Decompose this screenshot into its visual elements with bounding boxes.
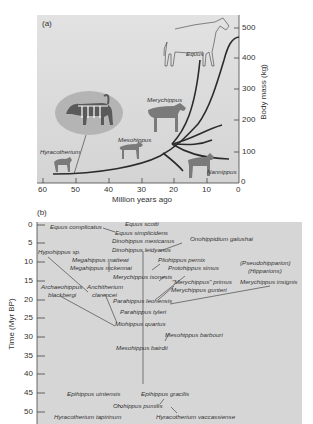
taxon-label-mesohippus: Mesohippus [118,137,151,143]
time-tick-35: 35 [24,352,33,360]
panel-a-label: (a) [42,20,52,28]
time-tick-25: 25 [24,314,33,322]
taxon-merychippus-isonesis: Merychippus isonesis [113,274,172,280]
y-tick-100: 100 [242,148,255,156]
taxon-label-merychippus: Merychippus [147,97,182,103]
taxon-equus-complicatus: Equus complicatus [50,224,102,230]
taxon-merychippus-insignis: Merychippus insignis [240,279,297,285]
taxon-hyracotherium-tapirinum: Hyracotherium tapirinum [54,414,121,420]
x-tick-20: 20 [169,186,178,194]
taxon-megahippus-mattewi: Megahippus mattewi [72,257,129,263]
taxon-label-nannippus: Nannippus [207,169,237,175]
time-tick-45: 45 [24,389,33,397]
y-tick-0: 0 [241,178,245,186]
x-tick-60: 60 [38,186,47,194]
taxon-orohippus-pumilis: Orohippus pumilis [113,403,163,409]
taxon-merychippus-primus: "Merychippus" primus [172,279,232,285]
taxon-pseudhipparion: (Pseudohipparion) [240,260,291,266]
taxon-parahippus-leonensis: Parahippus leonensis [113,298,172,304]
taxon-pliohippus-pernix: Pliohippus pernix [158,257,205,263]
taxon-label-hyracotherium: Hyracotherium [40,149,80,155]
hyracotherium-silhouette-icon [54,157,72,172]
taxon-epihippus-gracilis: Epihippus gracilis [141,391,189,397]
taxon-archaeohippus-1: Archaeohippus [41,284,82,290]
taxon-archaeohippus-2: blackbergi [48,292,76,298]
time-tick-50: 50 [24,408,33,416]
time-tick-40: 40 [24,370,33,378]
merychippus-silhouette-icon [148,103,186,132]
mesohippus-silhouette-icon [120,142,143,159]
x-tick-10: 10 [202,186,211,194]
taxon-parahippus-tyleri: Parahippus tyleri [120,309,166,315]
x-tick-0: 0 [236,186,240,194]
taxon-miohippus-quartus: Miohippus quartus [115,321,166,327]
panel-b-ylabel: Time (Myr BP) [8,298,16,349]
taxon-onohippidium-galushai: Onohippidium galushai [190,236,253,242]
y-tick-400: 400 [242,54,255,62]
taxon-epihippus-uintensis: Epihippus uintensis [67,391,120,397]
x-tick-50: 50 [71,186,80,194]
panel-a-xlabel: Million years ago [112,196,172,204]
y-tick-300: 300 [242,85,255,93]
time-tick-20: 20 [24,296,33,304]
taxon-hipparions: (Hipparions) [248,268,282,274]
taxon-merychippus-gunteri: Merychippus gunteri [171,287,227,293]
taxon-equus-scotti: Equus scotti [125,221,159,227]
taxon-protohippus-simus: Protohippus simus [168,265,219,271]
panel-a-ylabel: Body mass (kg) [260,64,268,120]
taxon-anchitherium-1: Anchitherium [87,284,123,290]
time-tick-0: 0 [28,221,32,229]
taxon-hyracotherium-vaccassiense: Hyracotherium vaccassiense [156,414,235,420]
taxon-mesohippus-bairdii: Mesohippus bairdii [116,345,168,351]
y-tick-200: 200 [242,116,255,124]
taxon-mesohippus-barbouri: Mesohippus barbouri [165,332,223,338]
y-tick-500: 500 [242,24,255,32]
time-tick-5: 5 [28,239,32,247]
x-tick-30: 30 [137,186,146,194]
equus-outline-icon [164,18,229,66]
x-tick-40: 40 [104,186,113,194]
time-tick-15: 15 [24,277,33,285]
taxon-megahippus-mckennai: Megahippus mckennai [70,265,132,271]
time-tick-30: 30 [24,333,33,341]
panel-b-label: (b) [37,209,47,217]
taxon-equus-simplicidens: Equus simplicidens [115,230,168,236]
taxon-dinohippus-mexicanus: Dinohippus mexicanus [112,238,174,244]
taxon-dinohippus-leidyanus: Dinohippus leidyanus [112,247,171,253]
taxon-hypohippus: Hypohippus sp. [38,249,81,255]
taxon-label-equus: Equus [186,51,204,57]
time-tick-10: 10 [24,258,33,266]
